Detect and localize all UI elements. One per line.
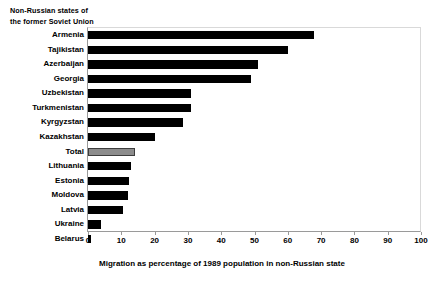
category-label-total: Total <box>0 145 84 160</box>
bar-track <box>88 159 421 174</box>
x-axis-title: Migration as percentage of 1989 populati… <box>0 259 444 268</box>
category-label-azerbaijan: Azerbaijan <box>0 57 84 72</box>
bar-track <box>88 203 421 218</box>
bar-row: Ukraine <box>0 217 444 232</box>
bar-track <box>88 72 421 87</box>
chart-note: Non-Russian states of the former Soviet … <box>10 6 140 27</box>
x-tick <box>288 232 289 235</box>
category-label-uzbekistan: Uzbekistan <box>0 86 84 101</box>
x-tick-label: 30 <box>183 236 192 245</box>
x-tick <box>121 232 122 235</box>
bar-track <box>88 101 421 116</box>
chart-note-line-1: Non-Russian states of <box>10 6 140 17</box>
bar-track <box>88 130 421 145</box>
bar-track <box>88 43 421 58</box>
category-label-ukraine: Ukraine <box>0 217 84 232</box>
x-tick-label: 70 <box>317 236 326 245</box>
bar-row: Latvia <box>0 203 444 218</box>
bar-uzbekistan <box>88 89 191 97</box>
category-label-latvia: Latvia <box>0 203 84 218</box>
category-label-kazakhstan: Kazakhstan <box>0 130 84 145</box>
bar-chart: Non-Russian states of the former Soviet … <box>0 0 444 281</box>
x-axis: 0102030405060708090100 <box>87 232 422 254</box>
bar-track <box>88 188 421 203</box>
bar-georgia <box>88 75 251 83</box>
x-tick-label: 20 <box>150 236 159 245</box>
bar-row: Moldova <box>0 188 444 203</box>
x-tick-label: 10 <box>117 236 126 245</box>
bar-row: Estonia <box>0 174 444 189</box>
category-label-belarus: Belarus <box>0 232 84 247</box>
x-tick <box>255 232 256 235</box>
bar-track <box>88 217 421 232</box>
bar-track <box>88 145 421 160</box>
bar-latvia <box>88 206 123 214</box>
category-label-turkmenistan: Turkmenistan <box>0 101 84 116</box>
bar-kazakhstan <box>88 133 155 141</box>
category-label-moldova: Moldova <box>0 188 84 203</box>
bar-rows: ArmeniaTajikistanAzerbaijanGeorgiaUzbeki… <box>0 28 444 232</box>
bar-lithuania <box>88 162 131 170</box>
bar-turkmenistan <box>88 104 191 112</box>
x-tick <box>88 232 89 235</box>
x-tick-label: 40 <box>217 236 226 245</box>
x-tick-label: 90 <box>383 236 392 245</box>
bar-row: Uzbekistan <box>0 86 444 101</box>
x-tick <box>221 232 222 235</box>
category-label-georgia: Georgia <box>0 72 84 87</box>
bar-moldova <box>88 191 128 199</box>
bar-tajikistan <box>88 46 288 54</box>
category-label-lithuania: Lithuania <box>0 159 84 174</box>
bar-azerbaijan <box>88 60 258 68</box>
bar-kyrgyzstan <box>88 118 183 126</box>
bar-row: Kyrgyzstan <box>0 115 444 130</box>
x-tick-label: 0 <box>86 236 90 245</box>
x-tick-label: 60 <box>283 236 292 245</box>
bar-row: Turkmenistan <box>0 101 444 116</box>
bar-ukraine <box>88 220 101 228</box>
bar-row: Georgia <box>0 72 444 87</box>
bar-row: Kazakhstan <box>0 130 444 145</box>
x-tick <box>155 232 156 235</box>
bar-row: Lithuania <box>0 159 444 174</box>
x-tick <box>188 232 189 235</box>
chart-note-line-2: the former Soviet Union <box>10 17 140 28</box>
x-tick-label: 50 <box>250 236 259 245</box>
category-label-kyrgyzstan: Kyrgyzstan <box>0 115 84 130</box>
bar-row: Tajikistan <box>0 43 444 58</box>
x-tick <box>421 232 422 235</box>
bar-estonia <box>88 177 129 185</box>
bar-track <box>88 57 421 72</box>
category-label-estonia: Estonia <box>0 174 84 189</box>
bar-total <box>88 148 135 156</box>
category-label-tajikistan: Tajikistan <box>0 43 84 58</box>
x-tick <box>321 232 322 235</box>
x-tick-label: 80 <box>350 236 359 245</box>
bar-row: Armenia <box>0 28 444 43</box>
bar-track <box>88 115 421 130</box>
bar-track <box>88 86 421 101</box>
bar-row: Azerbaijan <box>0 57 444 72</box>
x-tick <box>354 232 355 235</box>
bar-track <box>88 174 421 189</box>
x-tick <box>388 232 389 235</box>
x-tick-label: 100 <box>414 236 427 245</box>
bar-armenia <box>88 31 314 39</box>
bar-row: Total <box>0 145 444 160</box>
bar-track <box>88 28 421 43</box>
category-label-armenia: Armenia <box>0 28 84 43</box>
